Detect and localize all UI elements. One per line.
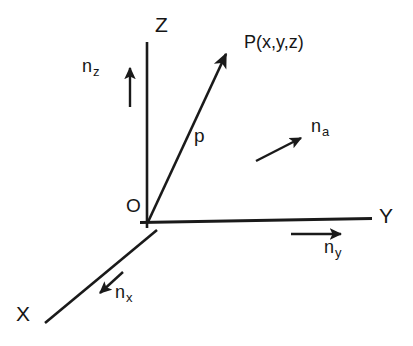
coordinate-system-diagram: Z Y X O P(x,y,z) p nz na ny nx — [0, 0, 413, 346]
ny-vector-label: ny — [324, 238, 341, 256]
p-vector-arrow — [148, 54, 226, 222]
origin-label: O — [126, 196, 141, 215]
x-axis-line — [45, 230, 157, 323]
point-p-label: P(x,y,z) — [244, 33, 304, 51]
nx-vector-label: nx — [115, 283, 132, 301]
na-label-subscript: a — [322, 124, 329, 139]
na-label-base: n — [311, 116, 321, 136]
ny-label-subscript: y — [335, 245, 342, 260]
z-axis-label: Z — [155, 14, 168, 35]
y-axis-line — [140, 219, 372, 223]
ny-label-base: n — [324, 237, 334, 257]
na-vector-label: na — [311, 117, 328, 135]
p-vector-label: p — [194, 126, 205, 145]
diagram-canvas — [0, 0, 413, 346]
na-vector-arrow — [256, 138, 301, 161]
y-axis-label: Y — [379, 205, 393, 226]
nz-label-base: n — [82, 56, 92, 76]
nx-label-subscript: x — [126, 290, 133, 305]
nz-label-subscript: z — [93, 64, 100, 79]
x-axis-label: X — [16, 303, 30, 324]
nz-vector-label: nz — [82, 57, 99, 75]
nx-label-base: n — [115, 282, 125, 302]
